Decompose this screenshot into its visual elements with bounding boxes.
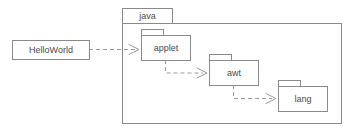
dependency-helloworld-applet[interactable] [89, 45, 139, 55]
node-lang-tab [279, 81, 301, 87]
node-applet-label: applet [154, 43, 179, 53]
dependency-applet-awt-line [166, 60, 204, 73]
node-helloworld-label: HelloWorld [29, 45, 73, 55]
dependency-awt-lang[interactable] [234, 85, 277, 104]
node-awt-label: awt [227, 68, 242, 78]
node-applet-tab [142, 30, 164, 36]
dependency-awt-lang-line [234, 85, 273, 99]
dependency-applet-awt[interactable] [166, 60, 208, 78]
diagram-canvas: java HelloWorld applet awt lang [0, 0, 349, 132]
node-helloworld[interactable]: HelloWorld [13, 41, 90, 60]
node-lang-label: lang [294, 94, 311, 104]
package-diagram: java HelloWorld applet awt lang [0, 0, 349, 132]
node-awt-tab [210, 55, 232, 61]
node-lang[interactable]: lang [279, 81, 328, 112]
package-java-label: java [138, 11, 156, 21]
node-awt[interactable]: awt [210, 55, 259, 86]
node-applet[interactable]: applet [142, 30, 191, 61]
